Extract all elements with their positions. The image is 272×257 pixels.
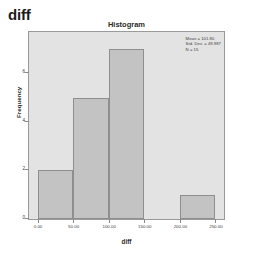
stat-n: N = 15 [186,47,221,52]
y-axis-title: Frequency [15,87,22,118]
x-axis-tick: 50.00 [73,219,74,223]
y-axis-tick: 0 [25,218,29,219]
x-axis-tick: 200.00 [180,219,181,223]
y-axis-tick-label: 0 [22,215,25,220]
x-axis-tick: 250.00 [215,219,216,223]
x-axis-tick: 0.00 [38,219,39,223]
stat-std-dev: Std. Dev. = 49.987 [186,41,221,46]
x-axis-tick-label: 150.00 [138,224,151,229]
histogram-bar [180,195,216,219]
y-axis-tick-label: 6 [22,69,25,74]
x-axis-tick-label: 200.00 [174,224,187,229]
histogram-bar [38,170,74,219]
chart-title: Histogram [28,20,225,29]
y-axis-tick-label: 2 [22,166,25,171]
x-axis-title: diff [28,238,225,245]
y-axis-tick-label: 4 [22,118,25,123]
y-axis-tick: 6 [25,72,29,73]
statistics-annotation: Mean = 101.80 Std. Dev. = 49.987 N = 15 [186,36,221,52]
x-axis-tick-label: 0.00 [34,224,43,229]
x-axis-tick-label: 250.00 [209,224,222,229]
histogram-plot-area: 02460.0050.00100.00150.00200.00250.00 Me… [28,31,225,220]
histogram-bar [109,49,145,219]
histogram-bar [73,98,109,219]
x-axis-tick-label: 100.00 [102,224,115,229]
y-axis-tick: 2 [25,169,29,170]
y-axis-tick: 4 [25,121,29,122]
plot-inner: 02460.0050.00100.00150.00200.00250.00 [29,32,224,219]
x-axis-tick-label: 50.00 [68,224,79,229]
x-axis-tick: 150.00 [144,219,145,223]
x-axis-tick: 100.00 [109,219,110,223]
